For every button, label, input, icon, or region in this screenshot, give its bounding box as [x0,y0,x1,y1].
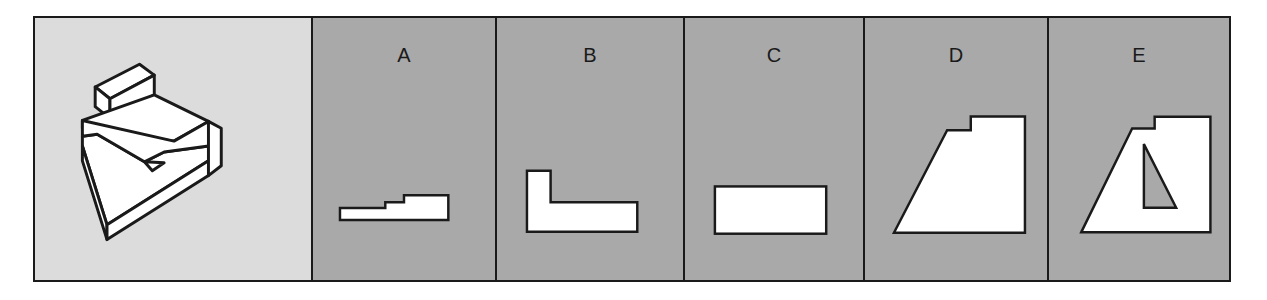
trapezoid-profile-icon [865,18,1047,280]
question-panel [35,18,313,280]
option-b[interactable]: B [497,18,685,280]
stepped-profile-icon [313,18,495,280]
isometric-object-icon [35,18,311,280]
option-a[interactable]: A [313,18,497,280]
trapezoid-with-hole-icon [1049,18,1229,280]
option-d[interactable]: D [865,18,1049,280]
l-profile-icon [497,18,683,280]
puzzle-frame: A B C D E [33,16,1231,282]
rectangle-profile-icon [685,18,863,280]
option-c[interactable]: C [685,18,865,280]
option-e[interactable]: E [1049,18,1229,280]
